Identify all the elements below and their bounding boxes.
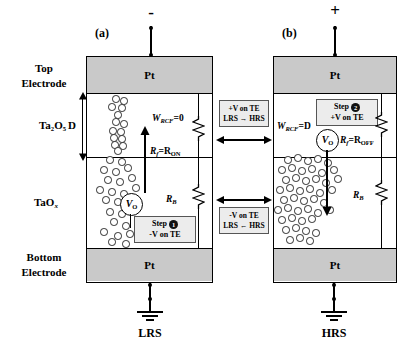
- oxide-bottom-formula: TaO: [34, 196, 54, 208]
- oxygen-vacancy: [114, 232, 122, 240]
- oxygen-vacancy: [286, 236, 294, 244]
- oxygen-vacancy: [284, 204, 292, 212]
- oxygen-vacancy: [96, 186, 104, 194]
- panel-a-top-node: [149, 26, 153, 30]
- oxygen-vacancy: [108, 238, 116, 246]
- panel-b-resistor-rf-icon: [375, 112, 388, 137]
- oxygen-vacancy: [298, 217, 306, 225]
- oxygen-vacancy: [122, 240, 130, 248]
- panel-a-w-subscript: RCF: [160, 117, 173, 124]
- oxygen-vacancy: [282, 226, 290, 234]
- panel-a-step-title: Step: [152, 219, 167, 228]
- oxygen-vacancy: [112, 95, 120, 103]
- oxygen-vacancy: [306, 237, 314, 245]
- panel-a-step-action: -V on TE: [149, 230, 180, 239]
- panel-a-rf-value-subscript: ON: [171, 150, 181, 157]
- oxygen-vacancy: [304, 205, 312, 213]
- panel-a-branch-wire-mid: [198, 140, 199, 185]
- transition-hrs-to-lrs-arrow: [216, 196, 272, 204]
- oxygen-vacancy: [312, 175, 320, 183]
- transition-lrs-to-hrs-arrow: [216, 136, 272, 144]
- panel-b-step-number: 2: [351, 103, 360, 112]
- oxygen-vacancy: [102, 196, 110, 204]
- panel-a-resistor-rf-icon: [192, 116, 205, 141]
- panel-a-top-electrode-label: Pt: [144, 69, 154, 81]
- panel-b-vo-subscript: O: [328, 139, 333, 146]
- panel-b-ground-node: [332, 297, 336, 301]
- figure-canvas: (a) - Pt Pt WRCF=0 Rf=RON RB: [0, 0, 411, 356]
- panel-b-rb-subscript: B: [359, 194, 363, 201]
- panel-a-terminal-sign: -: [144, 8, 158, 18]
- panel-a-bottom-electrode: Pt: [87, 248, 212, 281]
- oxygen-vacancy: [122, 222, 130, 230]
- thickness-dimension-line: [82, 97, 83, 155]
- oxygen-vacancy: [112, 118, 120, 126]
- oxygen-vacancy: [100, 228, 108, 236]
- panel-b-step-title: Step: [334, 102, 349, 111]
- panel-a-resistor-rb-icon: [192, 184, 205, 209]
- panel-a-bottom-electrode-label: Pt: [144, 259, 154, 271]
- oxygen-vacancy: [294, 207, 302, 215]
- thickness-arrow-up: [78, 92, 88, 100]
- oxygen-vacancy: [288, 214, 296, 222]
- oxygen-vacancy: [110, 218, 118, 226]
- panel-a-vo-stem: [130, 214, 131, 228]
- panel-b-rb-formula: RB: [353, 190, 364, 201]
- panel-b-rf-value-subscript: OFF: [361, 139, 374, 146]
- oxygen-vacancy: [334, 175, 342, 183]
- oxygen-vacancy: [124, 164, 132, 172]
- panel-b-branch-wire-top: [381, 93, 382, 113]
- panel-a-rb-formula: RB: [166, 194, 177, 205]
- panel-a-w-value: =0: [173, 113, 183, 123]
- transition-hrs-to-lrs-line2: LRS ← HRS: [223, 221, 264, 230]
- panel-b-vo-marker: VO: [316, 129, 339, 152]
- oxygen-vacancy: [308, 165, 316, 173]
- panel-b-branch-wire-bot: [381, 204, 382, 249]
- top-electrode-label-line2: Electrode: [2, 77, 86, 89]
- oxygen-vacancy: [108, 188, 116, 196]
- oxygen-vacancy: [304, 157, 312, 165]
- oxygen-vacancy: [306, 185, 314, 193]
- oxygen-vacancy: [278, 166, 286, 174]
- oxygen-vacancy: [300, 197, 308, 205]
- panel-b-bottom-node: [332, 283, 336, 287]
- thickness-symbol-label: D: [68, 119, 76, 131]
- panel-b-filament-arrowhead: [321, 206, 333, 216]
- bottom-electrode-label-line2: Electrode: [2, 266, 86, 278]
- oxygen-vacancy: [328, 186, 336, 194]
- oxygen-vacancy: [104, 176, 112, 184]
- oxygen-vacancy: [120, 120, 128, 128]
- oxygen-vacancy: [106, 156, 114, 164]
- top-electrode-label-line1: Top: [6, 62, 82, 74]
- panel-a-top-lead: [150, 26, 152, 56]
- oxygen-vacancy: [112, 168, 120, 176]
- panel-b-top-node: [333, 26, 337, 30]
- panel-a-ground-node: [148, 297, 152, 301]
- transition-lrs-to-hrs: +V on TE LRS → HRS: [219, 100, 269, 127]
- oxide-top-formula: Ta₂O₅: [39, 119, 66, 131]
- panel-b-tag: (b): [282, 26, 297, 41]
- panel-a-step-callout: Step 1 -V on TE: [134, 216, 196, 243]
- oxygen-vacancy: [294, 154, 302, 162]
- transition-lrs-to-hrs-line2: LRS → HRS: [223, 114, 264, 123]
- bottom-electrode-label-line1: Bottom: [4, 251, 84, 263]
- panel-b-w-value: =D: [298, 121, 310, 131]
- oxygen-vacancy: [132, 184, 140, 192]
- panel-b-bottom-electrode: Pt: [274, 248, 396, 281]
- oxygen-vacancy: [302, 177, 310, 185]
- panel-a-top-electrode: Pt: [87, 57, 212, 94]
- oxygen-vacancy: [290, 194, 298, 202]
- panel-a-step-number: 1: [169, 220, 178, 229]
- panel-a-vo-marker: VO: [120, 193, 143, 216]
- panel-a-rf-value: =R: [159, 146, 171, 156]
- oxygen-vacancy: [116, 178, 124, 186]
- oxygen-vacancy: [276, 186, 284, 194]
- oxide-top-label: Ta₂O₅: [6, 119, 66, 131]
- oxygen-vacancy: [128, 174, 136, 182]
- panel-a-w-formula: WRCF=0: [152, 113, 184, 124]
- panel-b-resistor-rb-icon: [375, 180, 388, 205]
- transition-hrs-to-lrs: -V on TE LRS ← HRS: [219, 207, 269, 234]
- panel-b-w-subscript: RCF: [285, 125, 298, 132]
- panel-a-state-label: LRS: [126, 326, 174, 341]
- panel-b-top-electrode: Pt: [274, 57, 396, 94]
